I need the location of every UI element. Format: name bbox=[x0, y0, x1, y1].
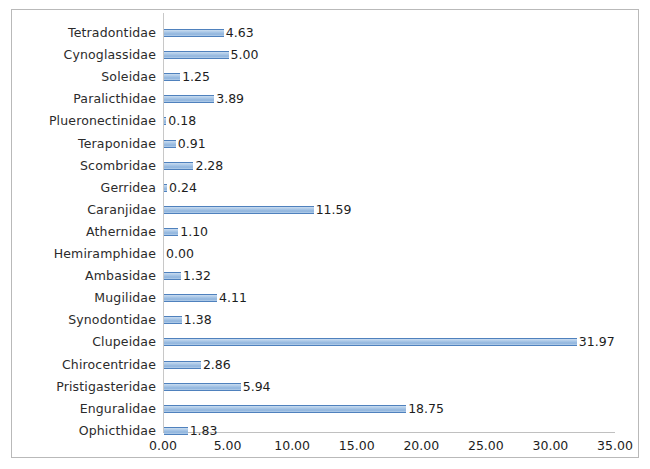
category-label: Plueronectinidae bbox=[12, 110, 156, 132]
category-label: Paralicthidae bbox=[12, 88, 156, 110]
category-label: Enguralidae bbox=[12, 398, 156, 420]
x-tick-label: 15.00 bbox=[327, 436, 387, 456]
bar-row: Cynoglassidae5.00 bbox=[12, 44, 640, 66]
x-tick-label: 25.00 bbox=[456, 436, 516, 456]
bar-value-label: 1.32 bbox=[183, 265, 211, 287]
category-label: Athernidae bbox=[12, 221, 156, 243]
bar-row: Mugilidae4.11 bbox=[12, 287, 640, 309]
bar bbox=[164, 228, 178, 236]
category-label: Pristigasteridae bbox=[12, 376, 156, 398]
bar-value-label: 2.86 bbox=[203, 354, 231, 376]
bar-value-label: 5.00 bbox=[231, 44, 259, 66]
bar-row: Paralicthidae3.89 bbox=[12, 88, 640, 110]
x-tick-label: 0.00 bbox=[133, 436, 193, 456]
bar bbox=[164, 162, 193, 170]
bar-row: Enguralidae18.75 bbox=[12, 398, 640, 420]
bar-row: Hemiramphidae0.00 bbox=[12, 243, 640, 265]
bar bbox=[164, 73, 180, 81]
bar-row: Tetradontidae4.63 bbox=[12, 22, 640, 44]
bar-row: Caranjidae11.59 bbox=[12, 199, 640, 221]
x-tick-label: 20.00 bbox=[391, 436, 451, 456]
bar-value-label: 5.94 bbox=[243, 376, 271, 398]
category-label: Caranjidae bbox=[12, 199, 156, 221]
bar-row: Scombridae2.28 bbox=[12, 155, 640, 177]
bar bbox=[164, 316, 182, 324]
bar-value-label: 1.25 bbox=[182, 66, 210, 88]
x-tick-label: 35.00 bbox=[585, 436, 645, 456]
bar-row: Ambasidae1.32 bbox=[12, 265, 640, 287]
bar bbox=[164, 383, 241, 391]
bar-row: Soleidae1.25 bbox=[12, 66, 640, 88]
bar bbox=[164, 140, 176, 148]
bar bbox=[164, 29, 224, 37]
bar-row: Gerridea0.24 bbox=[12, 177, 640, 199]
bar-row: Pristigasteridae5.94 bbox=[12, 376, 640, 398]
bar bbox=[164, 361, 201, 369]
category-label: Soleidae bbox=[12, 66, 156, 88]
bar-value-label: 0.00 bbox=[166, 243, 194, 265]
category-label: Ambasidae bbox=[12, 265, 156, 287]
bar bbox=[164, 272, 181, 280]
bar bbox=[164, 206, 314, 214]
bar-value-label: 11.59 bbox=[316, 199, 352, 221]
bar-row: Athernidae1.10 bbox=[12, 221, 640, 243]
category-label: Teraponidae bbox=[12, 133, 156, 155]
bar bbox=[164, 184, 167, 192]
category-label: Gerridea bbox=[12, 177, 156, 199]
bar-value-label: 0.24 bbox=[169, 177, 197, 199]
bar-value-label: 4.63 bbox=[226, 22, 254, 44]
bar-row: Synodontidae1.38 bbox=[12, 309, 640, 331]
bar bbox=[164, 117, 166, 125]
category-label: Synodontidae bbox=[12, 309, 156, 331]
category-label: Cynoglassidae bbox=[12, 44, 156, 66]
category-label: Mugilidae bbox=[12, 287, 156, 309]
bar-value-label: 2.28 bbox=[195, 155, 223, 177]
category-label: Scombridae bbox=[12, 155, 156, 177]
bar bbox=[164, 405, 406, 413]
category-label: Hemiramphidae bbox=[12, 243, 156, 265]
x-axis-tick-labels: 0.005.0010.0015.0020.0025.0030.0035.00 bbox=[12, 436, 640, 458]
category-label: Chirocentridae bbox=[12, 354, 156, 376]
bar bbox=[164, 427, 188, 435]
bar-value-label: 31.97 bbox=[579, 331, 615, 353]
bar-row: Teraponidae0.91 bbox=[12, 133, 640, 155]
bar-row: Plueronectinidae0.18 bbox=[12, 110, 640, 132]
x-tick-label: 30.00 bbox=[520, 436, 580, 456]
chart-frame: Tetradontidae4.63Cynoglassidae5.00Soleid… bbox=[11, 9, 639, 458]
x-tick-label: 5.00 bbox=[198, 436, 258, 456]
bar bbox=[164, 294, 217, 302]
plot-area: Tetradontidae4.63Cynoglassidae5.00Soleid… bbox=[12, 10, 640, 459]
bar-value-label: 18.75 bbox=[408, 398, 444, 420]
bar-row: Clupeidae31.97 bbox=[12, 331, 640, 353]
bar-value-label: 3.89 bbox=[216, 88, 244, 110]
bar-value-label: 1.10 bbox=[180, 221, 208, 243]
bar-value-label: 0.18 bbox=[168, 110, 196, 132]
bar bbox=[164, 95, 214, 103]
bar bbox=[164, 338, 577, 346]
bar-value-label: 4.11 bbox=[219, 287, 247, 309]
x-tick-label: 10.00 bbox=[262, 436, 322, 456]
category-label: Tetradontidae bbox=[12, 22, 156, 44]
category-label: Clupeidae bbox=[12, 331, 156, 353]
bar bbox=[164, 51, 229, 59]
bar-value-label: 1.38 bbox=[184, 309, 212, 331]
bar-value-label: 0.91 bbox=[178, 133, 206, 155]
bar-row: Chirocentridae2.86 bbox=[12, 354, 640, 376]
